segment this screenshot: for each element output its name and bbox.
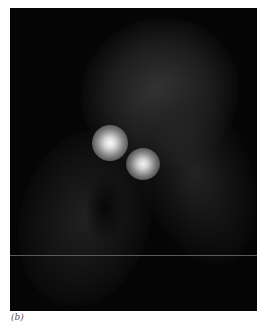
bright-spot-1: [92, 125, 128, 161]
micrograph-panel: [10, 8, 257, 311]
panel-label: (b): [11, 312, 24, 322]
dark-region: [85, 173, 125, 243]
bright-spot-2: [126, 148, 160, 180]
scan-line-artifact: [10, 255, 257, 256]
